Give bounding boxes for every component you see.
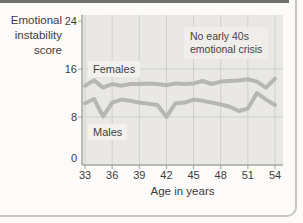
x-tick-label: 48 xyxy=(215,169,227,181)
y-tick-label: 8 xyxy=(71,111,77,123)
x-tick-label: 39 xyxy=(133,169,145,181)
annotation-no-crisis: No early 40s emotional crisis xyxy=(184,27,268,59)
x-tick-label: 54 xyxy=(269,169,281,181)
males-series-label: Males xyxy=(88,124,127,140)
females-series-label: Females xyxy=(88,61,140,77)
x-tick-label: 42 xyxy=(160,169,172,181)
y-tick-label: 24 xyxy=(65,15,77,27)
x-tick-label: 36 xyxy=(106,169,118,181)
x-axis-title: Age in years xyxy=(82,185,283,197)
annotation-line2: emotional crisis xyxy=(190,43,262,55)
figure-panel: Emotional instability score 333639424548… xyxy=(0,0,303,223)
annotation-line1: No early 40s xyxy=(190,30,249,42)
y-tick-label: 0 xyxy=(71,152,77,164)
y-tick-label: 16 xyxy=(65,63,77,75)
x-tick-label: 51 xyxy=(242,169,254,181)
x-tick-label: 45 xyxy=(187,169,199,181)
x-tick-label: 33 xyxy=(79,169,91,181)
